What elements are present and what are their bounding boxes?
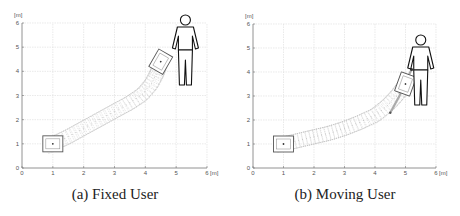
- x-tick-label: 6: [434, 170, 438, 176]
- path-point: [396, 96, 397, 97]
- path-point: [68, 136, 69, 137]
- user-head: [416, 35, 426, 45]
- y-tick-label: 0: [247, 165, 251, 171]
- path-point: [72, 134, 73, 135]
- y-tick-label: 1: [16, 141, 20, 147]
- path-point: [76, 132, 77, 133]
- caption-moving-user: (b) Moving User: [230, 186, 460, 203]
- y-tick-label: 6: [247, 21, 251, 27]
- robot-start-center: [52, 143, 54, 145]
- y-tick-label: 5: [247, 45, 251, 51]
- path-point: [149, 86, 150, 87]
- path-point: [83, 128, 84, 129]
- path-point: [95, 121, 96, 122]
- path-point: [144, 91, 145, 92]
- path-point: [391, 100, 392, 101]
- y-tick-label: 3: [247, 93, 251, 99]
- x-tick-label: 4: [373, 170, 377, 176]
- x-tick-label: 1: [282, 170, 286, 176]
- y-tick-label: 6: [16, 20, 20, 26]
- path-point: [156, 74, 157, 75]
- x-tick-label: 0: [20, 170, 24, 176]
- y-tick-label: 4: [16, 68, 20, 74]
- path-point: [325, 134, 326, 135]
- x-tick-label: 3: [343, 170, 347, 176]
- path-point: [384, 108, 385, 109]
- user-legs: [414, 70, 428, 105]
- y-tick-label: 2: [16, 117, 20, 123]
- user-legs: [178, 50, 192, 85]
- path-point: [106, 115, 107, 116]
- path-point: [118, 109, 119, 110]
- x-tick-label: 5: [404, 170, 408, 176]
- x-tick-label: 0: [251, 170, 255, 176]
- plot-moving-user: 01234560123456[m][m]: [230, 0, 460, 186]
- path-point: [64, 138, 65, 139]
- x-tick-label: 4: [144, 170, 148, 176]
- user-track-start: [389, 112, 391, 114]
- path-point: [321, 135, 322, 136]
- y-tick-label: 2: [247, 117, 251, 123]
- user-torso: [172, 27, 198, 50]
- y-tick-label: 3: [16, 93, 20, 99]
- path-point: [151, 83, 152, 84]
- path-point: [122, 107, 123, 108]
- path-point: [146, 88, 147, 89]
- path-point: [103, 117, 104, 118]
- y-tick-label: 5: [16, 44, 20, 50]
- robot-start: [43, 136, 63, 152]
- path-point: [142, 94, 143, 95]
- x-tick-label: 1: [51, 170, 55, 176]
- caption-fixed-user: (a) Fixed User: [0, 186, 230, 203]
- path-point: [387, 105, 388, 106]
- path-point: [126, 104, 127, 105]
- robot-start: [274, 136, 294, 152]
- x-tick-label: 5: [174, 170, 178, 176]
- robot-trajectory: [274, 73, 416, 152]
- x-tick-label: 6: [205, 170, 209, 176]
- path-point: [114, 111, 115, 112]
- path-point: [153, 80, 154, 81]
- path-point: [99, 119, 100, 120]
- path-point: [79, 130, 80, 131]
- robot-end: [149, 49, 173, 74]
- x-tick-label: 3: [113, 170, 117, 176]
- path-point: [136, 98, 137, 99]
- y-axis-label: [m]: [245, 13, 254, 19]
- x-tick-label: 2: [82, 170, 86, 176]
- y-tick-label: 0: [16, 165, 20, 171]
- x-axis-label: [m]: [439, 170, 448, 176]
- y-tick-label: 1: [247, 141, 251, 147]
- robot-start-center: [283, 143, 285, 145]
- y-tick-label: 4: [247, 69, 251, 75]
- user-head: [180, 15, 190, 25]
- path-point: [389, 103, 390, 104]
- path-point: [394, 98, 395, 99]
- x-axis-label: [m]: [210, 170, 219, 176]
- robot-end: [395, 72, 417, 96]
- path-point: [139, 96, 140, 97]
- path-point: [87, 126, 88, 127]
- x-tick-label: 2: [312, 170, 316, 176]
- user-torso: [408, 47, 434, 70]
- path-point: [154, 77, 155, 78]
- y-axis-label: [m]: [14, 12, 23, 18]
- panel-moving-user: 01234560123456[m][m] (b) Moving User: [230, 0, 460, 216]
- path-point: [110, 113, 111, 114]
- plot-fixed-user: 01234560123456[m][m]: [0, 0, 230, 186]
- path-point: [91, 123, 92, 124]
- panel-fixed-user: 01234560123456[m][m] (a) Fixed User: [0, 0, 230, 216]
- path-point: [381, 110, 382, 111]
